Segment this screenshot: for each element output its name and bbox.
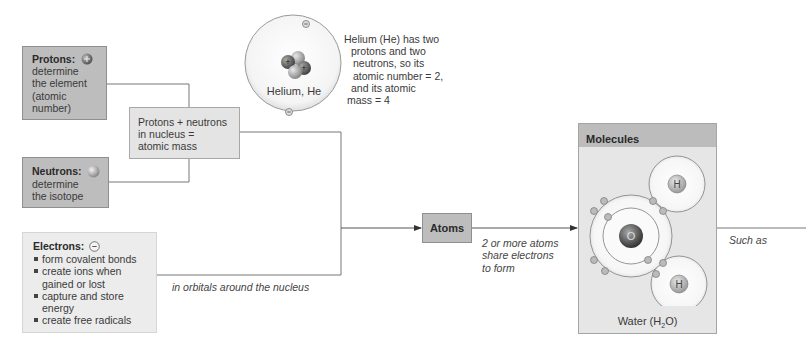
water-caption: Water (H2O) xyxy=(578,315,717,332)
electrons-bullet: create free radicals xyxy=(33,314,156,326)
electron-icon xyxy=(303,21,310,28)
electrons-bullet: capture and storeenergy xyxy=(33,290,156,314)
electrons-bullet: form covalent bonds xyxy=(33,253,156,265)
protons-line: number) xyxy=(32,102,106,114)
electrons-bullet: create ions whengained or lost xyxy=(33,265,156,289)
helium-atom-illustration: + + xyxy=(240,0,350,125)
electron-icon xyxy=(286,109,293,116)
neutrons-title: Neutrons: xyxy=(32,165,82,177)
molecules-title: Molecules xyxy=(586,133,639,145)
hydrogen-nucleus-icon: H xyxy=(670,275,688,293)
helium-description-line: protons and two xyxy=(344,45,474,57)
share-electrons-label: 2 or more atoms share electrons to form xyxy=(482,237,558,274)
neutrons-line: the isotope xyxy=(32,190,108,202)
water-caption-prefix: Water (H xyxy=(618,315,662,327)
bullet-text: form covalent bonds xyxy=(42,253,137,265)
oxygen-label: O xyxy=(627,230,636,242)
bullet-text: energy xyxy=(42,302,74,314)
bullet-text: capture and store xyxy=(42,290,124,302)
share-electrons-line: share electrons xyxy=(482,249,558,261)
water-caption-suffix: O) xyxy=(665,315,677,327)
atomic-mass-line: Protons + neutrons xyxy=(138,116,239,128)
helium-description-line: and its atomic xyxy=(344,82,474,94)
neutrons-box: Neutrons: determine the isotope xyxy=(22,157,109,208)
atoms-box: Atoms xyxy=(422,213,472,243)
electrons-bullet-list: form covalent bonds create ions whengain… xyxy=(33,253,156,326)
atoms-label: Atoms xyxy=(430,222,464,234)
share-electrons-line: to form xyxy=(482,262,558,274)
svg-text:+: + xyxy=(301,63,306,73)
such-as-label: Such as xyxy=(729,234,767,246)
hydrogen-nucleus-icon: H xyxy=(668,175,686,193)
helium-description-line: neutrons, so its xyxy=(344,57,474,69)
atomic-mass-line: in nucleus = xyxy=(138,128,239,140)
plus-sphere-icon xyxy=(81,53,93,65)
helium-description: Helium (He) has two protons and two neut… xyxy=(344,33,474,106)
protons-title: Protons: xyxy=(32,53,75,65)
bullet-text: create ions when xyxy=(42,265,121,277)
neutral-sphere-icon xyxy=(87,165,100,178)
helium-label: Helium, He xyxy=(246,85,342,97)
helium-description-line: mass = 4 xyxy=(344,94,474,106)
svg-text:+: + xyxy=(285,57,290,67)
share-electrons-line: 2 or more atoms xyxy=(482,237,558,249)
protons-line: determine xyxy=(32,65,106,77)
orbitals-label: in orbitals around the nucleus xyxy=(172,281,309,293)
protons-line: the element xyxy=(32,77,106,89)
water-molecule-illustration: O H H xyxy=(578,146,717,306)
bullet-text: create free radicals xyxy=(42,314,131,326)
helium-description-line: atomic number = 2, xyxy=(344,70,474,82)
hydrogen-label: H xyxy=(675,279,682,290)
oxygen-nucleus-icon: O xyxy=(619,224,643,248)
minus-circle-icon xyxy=(89,241,100,252)
atomic-mass-line: atomic mass xyxy=(138,140,239,152)
electrons-title: Electrons: xyxy=(33,240,84,252)
electrons-box: Electrons: form covalent bonds create io… xyxy=(22,232,157,333)
molecules-header: Molecules xyxy=(579,124,716,147)
protons-line: (atomic xyxy=(32,90,106,102)
neutrons-line: determine xyxy=(32,178,108,190)
helium-description-line: Helium (He) has two xyxy=(344,33,474,45)
atomic-mass-box: Protons + neutrons in nucleus = atomic m… xyxy=(129,107,240,159)
hydrogen-label: H xyxy=(673,179,680,190)
protons-box: Protons: determine the element (atomic n… xyxy=(22,46,107,120)
bullet-text: gained or lost xyxy=(42,278,105,290)
